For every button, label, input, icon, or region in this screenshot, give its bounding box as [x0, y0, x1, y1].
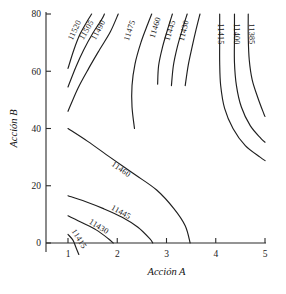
contour-plot-svg: 02040608012345 1152011505114901147511460…: [0, 0, 286, 294]
x-tick-label: 4: [213, 249, 218, 259]
contour-line: [68, 129, 190, 244]
contour-lines: [68, 14, 265, 254]
y-tick-label: 80: [32, 9, 42, 19]
contour-label: 11475: [122, 19, 137, 42]
contour-label: 11430: [87, 217, 110, 236]
contour-label: 11385: [247, 23, 256, 44]
y-axis-title: Acción B: [8, 109, 19, 149]
contour-label: 11460: [110, 160, 132, 180]
x-tick-label: 5: [263, 249, 268, 259]
y-tick-label: 40: [32, 124, 42, 134]
contour-chart-figure: 02040608012345 1152011505114901147511460…: [0, 0, 286, 294]
y-tick-label: 20: [32, 181, 42, 191]
contour-label: 11430: [177, 19, 191, 42]
y-tick-label: 0: [36, 238, 41, 248]
x-tick-label: 1: [66, 249, 71, 259]
x-tick-label: 2: [115, 249, 120, 259]
tick-labels: 02040608012345: [32, 9, 268, 259]
axes: [46, 12, 266, 252]
contour-label: 11445: [163, 19, 178, 42]
contour-label: 11445: [109, 203, 132, 221]
y-tick-label: 60: [32, 67, 42, 77]
contour-label: 11415: [216, 23, 225, 44]
x-tick-label: 3: [164, 249, 169, 259]
contour-label: 11400: [232, 23, 241, 44]
x-axis-title: Acción A: [146, 266, 186, 277]
